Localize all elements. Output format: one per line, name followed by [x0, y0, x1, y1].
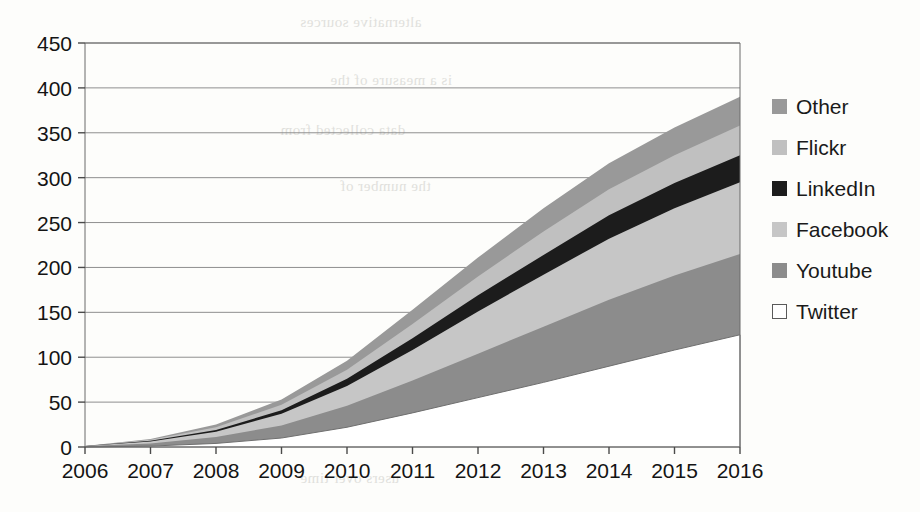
y-axis-tick-label: 400 — [37, 77, 72, 100]
y-axis-tick-label: 0 — [60, 436, 72, 459]
x-axis-tick-label: 2011 — [390, 459, 435, 482]
y-axis-tick-label: 100 — [37, 346, 72, 369]
legend-item-facebook[interactable]: Facebook — [772, 209, 888, 250]
legend-item-youtube[interactable]: Youtube — [772, 250, 888, 291]
legend-swatch-icon — [772, 140, 787, 155]
legend-item-other[interactable]: Other — [772, 86, 888, 127]
x-axis-tick-label: 2007 — [127, 459, 174, 482]
legend-swatch-icon — [772, 263, 787, 278]
y-axis-tick-label: 450 — [37, 32, 72, 55]
legend-item-linkedin[interactable]: LinkedIn — [772, 168, 888, 209]
x-axis-tick-label: 2006 — [62, 459, 109, 482]
legend-item-twitter[interactable]: Twitter — [772, 291, 888, 332]
legend-label: LinkedIn — [796, 178, 875, 199]
y-axis-tick-label: 300 — [37, 167, 72, 190]
x-axis-tick-label: 2014 — [586, 459, 633, 482]
legend-label: Flickr — [796, 137, 846, 158]
legend-swatch-icon — [772, 304, 787, 319]
chart-legend: OtherFlickrLinkedInFacebookYoutubeTwitte… — [772, 86, 888, 332]
legend-label: Other — [796, 96, 849, 117]
x-axis-tick-label: 2013 — [520, 459, 567, 482]
x-axis-tick-label: 2012 — [455, 459, 502, 482]
y-axis-tick-label: 250 — [37, 212, 72, 235]
y-axis-tick-labels: 450400350300250200150100500 — [37, 32, 72, 459]
legend-label: Facebook — [796, 219, 888, 240]
y-axis-tick-label: 350 — [37, 122, 72, 145]
legend-label: Youtube — [796, 260, 872, 281]
legend-swatch-icon — [772, 181, 787, 196]
area-series-group — [85, 97, 740, 447]
y-axis-tick-label: 50 — [49, 391, 72, 414]
legend-swatch-icon — [772, 99, 787, 114]
legend-item-flickr[interactable]: Flickr — [772, 127, 888, 168]
x-axis-tick-label: 2015 — [651, 459, 698, 482]
y-axis-tick-label: 150 — [37, 301, 72, 324]
x-axis-tick-labels: 2006200720082009201020112012201320142015… — [62, 459, 764, 482]
legend-swatch-icon — [772, 222, 787, 237]
stacked-area-chart: alternative sources is a measure of the … — [0, 0, 920, 512]
x-axis-tick-label: 2010 — [324, 459, 371, 482]
x-axis-tick-label: 2008 — [193, 459, 240, 482]
legend-label: Twitter — [796, 301, 858, 322]
y-axis-tick-label: 200 — [37, 256, 72, 279]
x-axis-tick-label: 2009 — [258, 459, 305, 482]
x-axis-tick-label: 2016 — [717, 459, 764, 482]
